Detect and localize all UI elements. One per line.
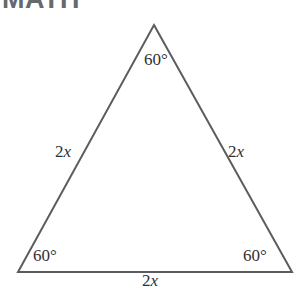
side-label-left: 2x [55,143,71,160]
side-label-bottom: 2x [142,272,158,289]
side-label-right: 2x [228,143,244,160]
side-left-variable: x [64,142,72,161]
side-left-coefficient: 2 [55,142,64,161]
angle-label-bottom-left: 60° [33,247,57,264]
diagram-page: MATH 60° 60° 60° 2x 2x 2x [0,0,304,298]
side-right-coefficient: 2 [228,142,237,161]
side-bottom-coefficient: 2 [142,271,151,290]
angle-label-bottom-right: 60° [243,247,267,264]
side-right-variable: x [237,142,245,161]
side-bottom-variable: x [151,271,159,290]
angle-label-apex: 60° [144,51,168,68]
